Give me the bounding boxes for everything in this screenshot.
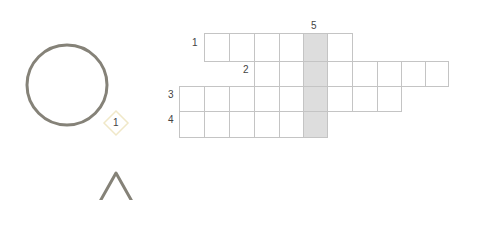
grid-cell[interactable] xyxy=(254,33,280,62)
grid-cell[interactable] xyxy=(204,86,230,112)
grid-cell[interactable] xyxy=(179,111,205,138)
grid-cell[interactable] xyxy=(279,61,304,87)
column-number-label: 5 xyxy=(311,21,317,31)
triangle-shape xyxy=(98,173,134,200)
row-number-label: 2 xyxy=(243,65,249,75)
grid-cell[interactable] xyxy=(303,61,328,87)
grid-cell[interactable] xyxy=(401,61,426,87)
row-number-label: 4 xyxy=(168,115,174,125)
grid-cell[interactable] xyxy=(327,61,353,87)
grid-cell[interactable] xyxy=(254,61,280,87)
grid-cell[interactable] xyxy=(229,111,255,138)
grid-cell[interactable] xyxy=(279,86,304,112)
grid-cell[interactable] xyxy=(327,86,353,112)
grid-cell[interactable] xyxy=(352,86,378,112)
grid-cell[interactable] xyxy=(303,111,328,138)
grid-cell[interactable] xyxy=(204,111,230,138)
grid-cell[interactable] xyxy=(279,111,304,138)
row-number-label: 3 xyxy=(168,90,174,100)
grid-cell[interactable] xyxy=(254,86,280,112)
grid-cell[interactable] xyxy=(254,111,280,138)
grid-cell[interactable] xyxy=(303,86,328,112)
row-number-label: 1 xyxy=(192,38,198,48)
grid-cell[interactable] xyxy=(377,61,402,87)
grid-cell[interactable] xyxy=(327,33,353,62)
grid-cell[interactable] xyxy=(229,33,255,62)
grid-cell[interactable] xyxy=(229,86,255,112)
grid-cell[interactable] xyxy=(425,61,449,87)
grid-cell[interactable] xyxy=(303,33,328,62)
badge-number: 1 xyxy=(113,118,119,128)
grid-cell[interactable] xyxy=(279,33,304,62)
grid-cell[interactable] xyxy=(204,33,230,62)
grid-cell[interactable] xyxy=(352,61,378,87)
circle-shape xyxy=(27,45,107,125)
grid-cell[interactable] xyxy=(377,86,402,112)
grid-cell[interactable] xyxy=(179,86,205,112)
